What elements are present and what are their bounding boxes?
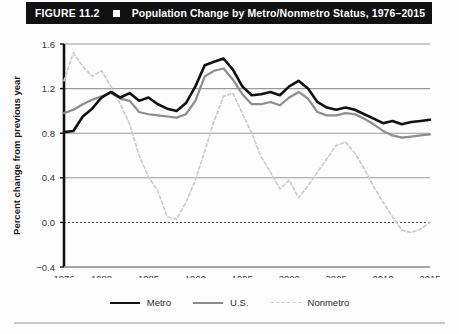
- chart-legend: Metro U.S. Nonmetro: [0, 292, 459, 312]
- y-tick-label: 1.2: [42, 83, 55, 94]
- y-tick-label: 0.4: [42, 172, 55, 183]
- x-tick-label: 2000: [279, 273, 300, 278]
- legend-label-nonmetro: Nonmetro: [308, 297, 350, 308]
- x-axis-tick-labels: 197619801985199019952000200520102015: [53, 273, 440, 278]
- legend-item-metro: Metro: [110, 297, 171, 308]
- legend-line-nonmetro-icon: [271, 297, 301, 307]
- figure-title-label: Population Change by Metro/Nonmetro Stat…: [132, 7, 426, 19]
- y-axis-title: Percent change from previous year: [11, 76, 22, 235]
- data-series-group: [64, 53, 430, 233]
- series-line-metro: [64, 58, 430, 132]
- axis-lines-group: [60, 44, 430, 267]
- x-tick-label: 1995: [232, 273, 253, 278]
- legend-line-us-icon: [193, 297, 223, 307]
- y-axis-title-text: Percent change from previous year: [11, 76, 22, 235]
- x-tick-label: 1980: [91, 273, 112, 278]
- x-tick-label: 2015: [419, 273, 440, 278]
- x-tick-label: 1985: [138, 273, 159, 278]
- figure-header-bar: FIGURE 11.2 Population Change by Metro/N…: [26, 2, 432, 24]
- figure-number-label: FIGURE 11.2: [35, 7, 100, 19]
- x-tick-label: 2010: [373, 273, 394, 278]
- chart-plot-area: −0.40.00.40.81.21.6 19761980198519901995…: [0, 28, 459, 278]
- legend-item-us: U.S.: [193, 297, 248, 308]
- line-chart-svg: −0.40.00.40.81.21.6 19761980198519901995…: [0, 28, 459, 278]
- legend-label-metro: Metro: [147, 297, 171, 308]
- x-tick-label: 2005: [326, 273, 347, 278]
- y-tick-label: −0.4: [36, 262, 55, 273]
- footer-divider: [14, 322, 445, 324]
- y-axis-tick-labels: −0.40.00.40.81.21.6: [36, 39, 55, 273]
- legend-label-us: U.S.: [230, 297, 248, 308]
- series-line-nonmetro: [64, 53, 430, 233]
- y-tick-label: 0.0: [42, 217, 55, 228]
- gridlines-group: [64, 44, 430, 267]
- y-tick-label: 0.8: [42, 128, 55, 139]
- figure-container: FIGURE 11.2 Population Change by Metro/N…: [0, 0, 459, 334]
- x-tick-label: 1990: [185, 273, 206, 278]
- legend-line-metro-icon: [110, 297, 140, 307]
- square-bullet-icon: [113, 10, 120, 17]
- legend-item-nonmetro: Nonmetro: [271, 297, 350, 308]
- y-tick-label: 1.6: [42, 39, 55, 50]
- x-tick-label: 1976: [53, 273, 74, 278]
